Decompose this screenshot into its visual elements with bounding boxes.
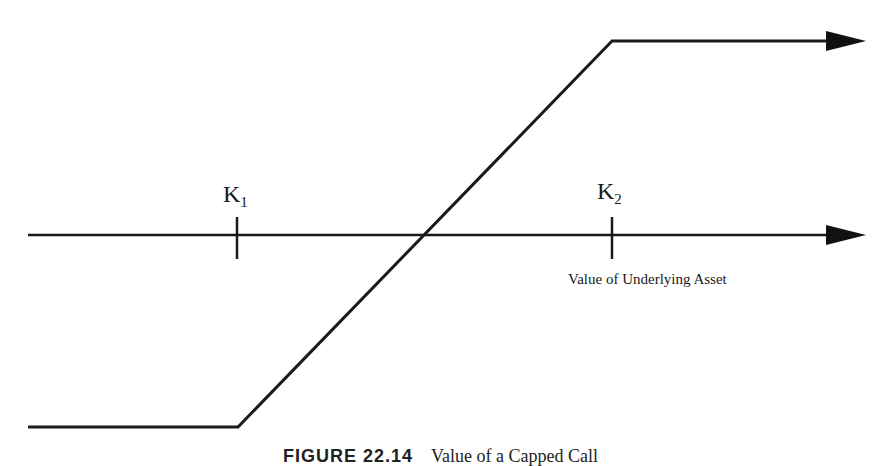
figure-title: Value of a Capped Call bbox=[431, 446, 598, 466]
x-axis-arrowhead bbox=[826, 225, 866, 245]
k2-label: K2 bbox=[597, 179, 622, 211]
k1-name: K bbox=[223, 181, 240, 207]
payoff-arrowhead bbox=[826, 31, 866, 51]
k2-subscript: 2 bbox=[614, 191, 622, 207]
k1-subscript: 1 bbox=[240, 194, 248, 210]
figure-number: FIGURE 22.14 bbox=[283, 446, 413, 466]
figure-caption: FIGURE 22.14Value of a Capped Call bbox=[283, 446, 598, 466]
x-axis-label: Value of Underlying Asset bbox=[568, 271, 727, 287]
k1-label: K1 bbox=[223, 182, 248, 214]
k2-name: K bbox=[597, 178, 614, 204]
